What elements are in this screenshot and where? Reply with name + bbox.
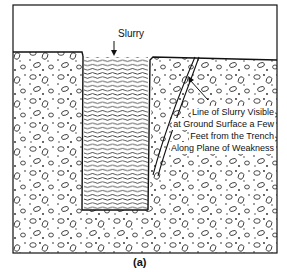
annotation-line-1: Line of Slurry Visible [191,106,275,118]
soil-right [148,57,277,253]
annotation-text: Line of Slurry Visible at Ground Surface… [170,106,275,154]
figure-caption: (a) [133,256,146,268]
annotation-line-3: Feet from the Trench [189,130,275,142]
annotation-line-2: at Ground Surface a Few [172,118,275,130]
annotation-line-4: Along Plane of Weakness [170,142,275,154]
slurry-label: Slurry [118,28,144,39]
slurry-arrow-head [111,50,117,56]
trench-slurry [84,57,148,209]
